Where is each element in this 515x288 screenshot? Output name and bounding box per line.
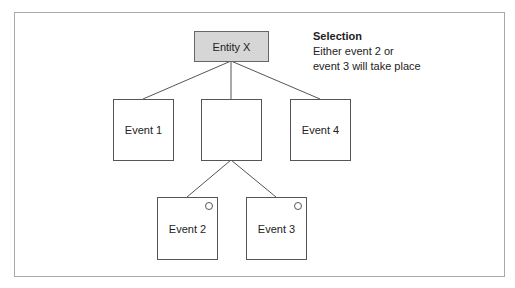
note-line-1: Either event 2 or	[313, 44, 421, 59]
event-4-label: Event 4	[302, 124, 339, 136]
event-3-label: Event 3	[258, 223, 295, 235]
selection-note: Selection Either event 2 or event 3 will…	[313, 29, 421, 74]
circle-marker-icon	[205, 202, 213, 210]
entity-x-node: Entity X	[194, 31, 269, 62]
event-2-label: Event 2	[169, 223, 206, 235]
circle-marker-icon	[294, 202, 302, 210]
connector-middle-event2	[187, 160, 231, 197]
selection-node	[201, 99, 262, 161]
event-4-node: Event 4	[290, 99, 351, 161]
connector-middle-event3	[231, 160, 276, 197]
event-3-node: Event 3	[246, 197, 307, 260]
event-1-node: Event 1	[113, 99, 174, 161]
entity-x-label: Entity X	[213, 41, 251, 53]
connector-entity-event1	[143, 61, 231, 99]
note-line-2: event 3 will take place	[313, 59, 421, 74]
note-title: Selection	[313, 29, 421, 44]
event-2-node: Event 2	[157, 197, 218, 260]
connector-entity-event4	[231, 61, 320, 99]
event-1-label: Event 1	[125, 124, 162, 136]
